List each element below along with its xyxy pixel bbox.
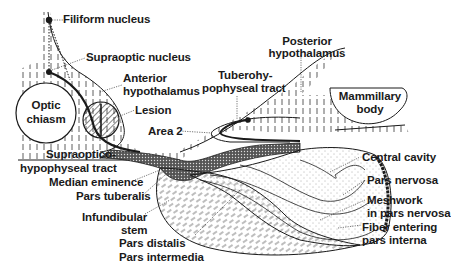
label-pars-distalis: Pars distalis <box>119 237 185 250</box>
label-tuberohypophyseal-2: pophyseal tract <box>202 82 286 95</box>
label-anterior-hypothalamus-2: hypothalamus <box>123 85 200 98</box>
label-filiform-nucleus: Filiform nucleus <box>63 13 150 26</box>
label-supraoptico-1: Supraoptico- <box>46 148 116 161</box>
label-fiber-entering-2: pars interna <box>362 234 427 247</box>
label-central-cavity: Central cavity <box>362 151 436 164</box>
label-infundibular-1: Infundibular <box>82 211 147 224</box>
label-median-eminence: Median eminence <box>49 176 143 189</box>
label-mammillary-body-1: Mammillary <box>335 90 405 103</box>
label-lesion: Lesion <box>135 104 171 117</box>
label-supraoptic-nucleus: Supraoptic nucleus <box>86 51 191 64</box>
label-optic-chiasm-2: chiasm <box>24 113 68 126</box>
label-mammillary-body-2: body <box>335 103 405 116</box>
label-tuberohypophyseal-1: Tuberohy- <box>218 69 272 82</box>
label-meshwork-1: Meshwork <box>367 194 422 207</box>
label-posterior-hypothalamus-2: hypothalamus <box>252 47 362 60</box>
label-pars-tuberalis: Pars tuberalis <box>76 190 151 203</box>
label-fiber-entering-1: Fiber entering <box>362 221 437 234</box>
label-meshwork-2: in pars nervosa <box>367 207 451 220</box>
label-optic-chiasm-1: Optic <box>24 99 68 112</box>
label-pars-nervosa: Pars nervosa <box>367 174 438 187</box>
label-anterior-hypothalamus-1: Anterior <box>123 72 167 85</box>
label-infundibular-2: stem <box>121 224 147 237</box>
label-pars-intermedia: Pars intermedia <box>119 251 204 264</box>
label-area-2: Area 2 <box>148 125 183 138</box>
label-supraoptico-2: hypophyseal tract <box>20 162 117 175</box>
